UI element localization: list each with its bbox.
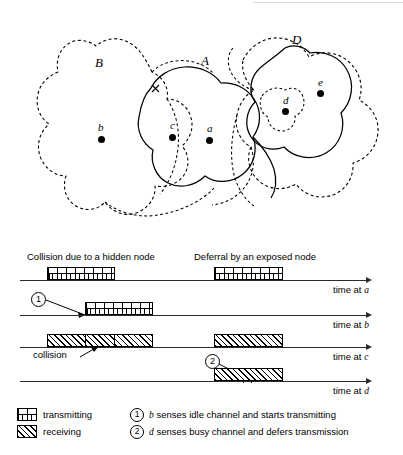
legend-callout-1: 1 xyxy=(130,408,144,422)
overlap-strand-3 xyxy=(105,188,214,216)
node-label-c: c xyxy=(170,120,175,131)
legend-note-1-text: senses idle channel and starts transmitt… xyxy=(154,409,336,420)
coverage-map-panel: B A D b c a d e xyxy=(0,0,403,240)
overlap-strand-4 xyxy=(212,147,253,205)
figure-root: B A D b c a d e Collision due to a hidde… xyxy=(0,0,403,455)
node-dot-e xyxy=(317,90,324,97)
node-label-b: b xyxy=(98,122,104,133)
region-label-a: A xyxy=(201,54,209,67)
legend-swatch-receiving xyxy=(17,425,37,438)
region-a-outline xyxy=(138,67,259,186)
region-d-outline xyxy=(236,38,378,197)
coverage-map-svg xyxy=(0,0,403,240)
axis-line-d xyxy=(20,381,368,382)
node-label-d: d xyxy=(283,95,289,106)
axis-arrow-d xyxy=(366,378,372,384)
region-label-b: B xyxy=(95,56,103,69)
node-dot-b xyxy=(98,136,105,143)
legend-panel: transmitting receiving 1 b senses idle c… xyxy=(0,400,403,455)
legend-note-2-text: senses busy channel and defers transmiss… xyxy=(154,426,349,437)
legend-label-transmitting: transmitting xyxy=(43,409,92,420)
node-label-e: e xyxy=(318,77,323,88)
region-b-outline xyxy=(37,39,192,215)
legend-callout-2: 2 xyxy=(130,425,144,439)
legend-label-receiving: receiving xyxy=(43,426,81,437)
callout-2-leader xyxy=(0,240,403,400)
node-dot-a xyxy=(206,137,213,144)
region-label-d: D xyxy=(292,33,301,46)
legend-note-2: d senses busy channel and defers transmi… xyxy=(149,426,349,438)
legend-note-1: b senses idle channel and starts transmi… xyxy=(149,409,336,421)
node-label-a: a xyxy=(207,123,213,134)
time-label-d-node: d xyxy=(364,386,369,396)
node-dot-d xyxy=(282,108,289,115)
timing-diagram-panel: Collision due to a hidden node Deferral … xyxy=(0,240,403,400)
legend-swatch-transmitting xyxy=(17,408,37,421)
node-dot-c xyxy=(169,134,176,141)
overlap-strand-2 xyxy=(232,115,254,206)
overlap-strand-6 xyxy=(253,137,276,198)
x-mark-icon xyxy=(152,85,159,92)
time-label-d: time at d xyxy=(333,386,369,396)
region-e-solid-outline xyxy=(247,46,352,158)
bar-d-receive xyxy=(214,368,283,381)
